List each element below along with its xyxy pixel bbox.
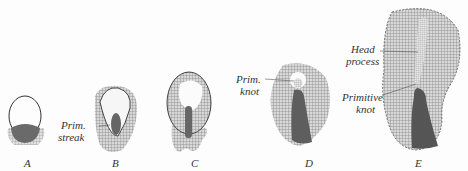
stage-b-annotation-line1: Prim. bbox=[61, 120, 86, 131]
figure-drawings bbox=[0, 0, 468, 171]
stage-b-annotation-line2: streak bbox=[58, 132, 84, 143]
stage-e-label: E bbox=[415, 158, 422, 169]
stage-c-label: C bbox=[191, 158, 198, 169]
stage-d-annotation-line2: knot bbox=[240, 86, 259, 97]
stage-e-drawing bbox=[380, 9, 460, 150]
stage-d-drawing bbox=[271, 63, 330, 146]
stage-b-label: B bbox=[112, 158, 119, 169]
stage-c-drawing bbox=[167, 72, 211, 152]
stage-e-knot-line2: knot bbox=[356, 104, 375, 115]
embryo-stages-figure: Prim. streak Prim. knot Head process Pri… bbox=[0, 0, 468, 171]
stage-e-head-line1: Head bbox=[351, 44, 375, 55]
stage-a-drawing bbox=[8, 96, 45, 145]
stage-b-drawing bbox=[95, 86, 137, 152]
stage-a-label: A bbox=[24, 158, 31, 169]
stage-e-knot-line1: Primitive bbox=[342, 92, 383, 103]
stage-e-head-line2: process bbox=[346, 56, 379, 67]
stage-d-annotation-line1: Prim. bbox=[236, 74, 261, 85]
stage-d-label: D bbox=[305, 158, 313, 169]
